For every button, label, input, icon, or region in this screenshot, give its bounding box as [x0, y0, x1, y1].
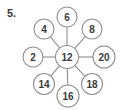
node-value-20: 20: [98, 52, 110, 63]
center-node: 12: [56, 46, 79, 69]
node-value-14: 14: [38, 79, 50, 90]
spider-web-diagram: 68201816142412: [0, 0, 123, 110]
node-8: 8: [82, 19, 102, 39]
node-20: 20: [93, 46, 115, 68]
node-value-2: 2: [30, 52, 36, 63]
spoke-line-18: [74, 65, 85, 77]
nodes-group: 68201816142412: [23, 7, 115, 107]
node-value-8: 8: [89, 24, 95, 35]
figure-root: 5. 68201816142412: [0, 0, 123, 110]
node-18: 18: [82, 74, 103, 95]
spoke-line-8: [74, 36, 85, 49]
center-node-value: 12: [61, 52, 73, 63]
node-4: 4: [34, 19, 54, 39]
node-value-6: 6: [64, 12, 70, 23]
node-2: 2: [23, 47, 43, 67]
node-value-18: 18: [86, 79, 98, 90]
spoke-line-4: [50, 36, 60, 48]
node-value-4: 4: [41, 24, 47, 35]
node-6: 6: [57, 7, 77, 27]
spoke-line-14: [50, 65, 59, 76]
node-14: 14: [34, 74, 55, 95]
node-value-16: 16: [62, 91, 74, 102]
node-16: 16: [57, 85, 79, 107]
